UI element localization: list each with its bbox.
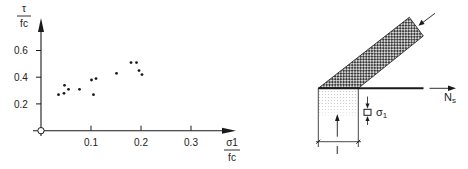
- y-tick-label: 0.2: [14, 99, 28, 110]
- y-axis-label: τ fc: [17, 3, 31, 29]
- x-axis-arrow-icon: [222, 128, 236, 134]
- data-point: [138, 69, 141, 72]
- data-point: [63, 84, 66, 87]
- stress-arrow-down-icon: [366, 104, 370, 109]
- compression-strut: [318, 17, 423, 88]
- data-point: [78, 88, 81, 91]
- x-axis-label: σ1 fc: [224, 137, 240, 163]
- y-tick-label: 0.6: [14, 45, 28, 56]
- data-point: [90, 79, 93, 82]
- y-label-numerator: τ: [22, 3, 26, 14]
- scatter-chart: 0.2 0.4 0.6 0.1 0.2 0.3 τ fc σ1 fc: [14, 3, 240, 163]
- data-point: [141, 73, 144, 76]
- data-point: [95, 77, 98, 80]
- data-point: [67, 88, 70, 91]
- x-tick-label: 0.2: [134, 137, 148, 148]
- data-point: [115, 72, 118, 75]
- origin-marker: [38, 128, 44, 134]
- strut-tie-diagram: Ns l σ1: [316, 13, 456, 156]
- data-points: [57, 61, 143, 96]
- stress-element: [364, 109, 371, 115]
- x-label-denominator: fc: [228, 152, 236, 163]
- x-label-numerator: σ1: [226, 137, 238, 148]
- y-ticks: 0.2 0.4 0.6: [14, 45, 41, 109]
- x-ticks: 0.1 0.2 0.3: [84, 126, 198, 148]
- tie-force-label: Ns: [444, 91, 456, 105]
- stress-label: σ1: [376, 106, 388, 120]
- x-tick-label: 0.3: [184, 137, 198, 148]
- data-point: [63, 92, 66, 95]
- stress-arrow-up-icon: [366, 116, 370, 121]
- data-point: [130, 61, 133, 64]
- y-tick-label: 0.4: [14, 72, 28, 83]
- data-point: [135, 61, 138, 64]
- length-label: l: [336, 144, 338, 156]
- y-label-denominator: fc: [20, 18, 28, 29]
- strut-arrow-head-icon: [419, 20, 425, 26]
- figure-canvas: 0.2 0.4 0.6 0.1 0.2 0.3 τ fc σ1 fc: [0, 0, 468, 169]
- data-point: [92, 93, 95, 96]
- data-point: [57, 93, 60, 96]
- y-axis-arrow-icon: [38, 18, 44, 32]
- x-tick-label: 0.1: [84, 137, 98, 148]
